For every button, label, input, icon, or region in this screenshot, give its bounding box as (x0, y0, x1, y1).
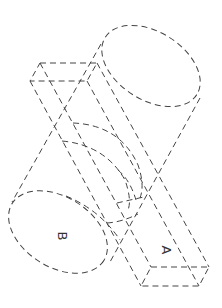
cylinder-top-ellipse (87, 9, 215, 124)
prism-bottom-face (141, 267, 209, 286)
prism-edge-2 (97, 63, 209, 267)
cylinder-right-edge (110, 98, 200, 262)
diagram-canvas: A B (0, 0, 222, 308)
prism-top-face (30, 63, 97, 81)
prism-edge-4 (30, 81, 141, 286)
label-b: B (55, 232, 70, 241)
intersection-curve-lower (62, 141, 129, 210)
intersection-curve-inner-1 (66, 196, 120, 240)
cylinder (0, 9, 215, 291)
cylinder-left-edge (12, 44, 101, 202)
label-a: A (159, 246, 174, 255)
rectangular-prism (30, 63, 209, 286)
prism-edge-3 (87, 81, 199, 286)
intersection-diagram: A B (0, 0, 222, 308)
intersection-curve-arc-bottom (117, 197, 144, 203)
